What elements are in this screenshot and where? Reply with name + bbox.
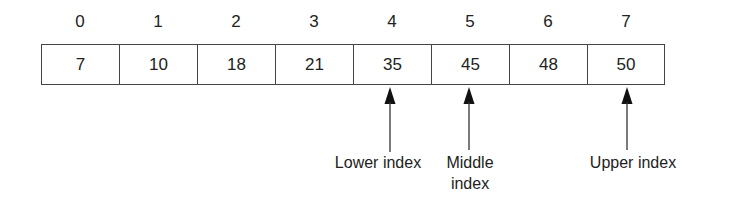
lower-index-label: Lower index bbox=[313, 152, 443, 173]
array-cell: 50 bbox=[587, 44, 665, 85]
middle-index-label-line2: index bbox=[430, 173, 510, 194]
middle-index-arrow-icon bbox=[462, 87, 476, 152]
array-cell: 35 bbox=[353, 44, 431, 85]
array-cell: 18 bbox=[197, 44, 275, 85]
array-cell: 7 bbox=[41, 44, 119, 85]
array-cell: 48 bbox=[509, 44, 587, 85]
array-cell: 45 bbox=[431, 44, 509, 85]
lower-index-arrow-icon bbox=[383, 87, 397, 152]
middle-index-label: Middle index bbox=[430, 152, 510, 194]
middle-index-label-line1: Middle bbox=[430, 152, 510, 173]
index-label: 3 bbox=[275, 12, 353, 32]
index-label: 6 bbox=[509, 12, 587, 32]
upper-index-arrow-icon bbox=[620, 87, 634, 152]
index-label: 0 bbox=[41, 12, 119, 32]
array-cell: 10 bbox=[119, 44, 197, 85]
index-label: 7 bbox=[587, 12, 665, 32]
index-label: 2 bbox=[197, 12, 275, 32]
array-cell: 21 bbox=[275, 44, 353, 85]
index-label: 1 bbox=[119, 12, 197, 32]
index-label: 5 bbox=[431, 12, 509, 32]
upper-index-label: Upper index bbox=[573, 152, 693, 173]
index-label: 4 bbox=[353, 12, 431, 32]
